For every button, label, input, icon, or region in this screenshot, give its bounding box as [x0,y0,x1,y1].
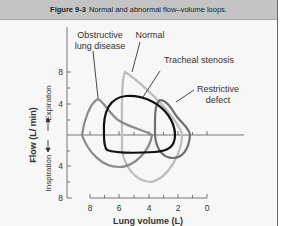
obstructive-loop [82,99,152,167]
x-tick-label: 4 [147,203,152,213]
annotation-restrictive: Restrictive [197,84,239,94]
x-tick-label: 8 [88,203,93,213]
annotation-normal: Normal [135,30,164,40]
y-tick-label: 4 [58,99,63,109]
x-axis-title: Lung volume (L) [113,216,183,226]
y-tick-label: 4 [58,161,63,171]
annotation-obstructive: lung disease [75,41,126,51]
y-axis-title: Flow (L/ min) [28,107,38,163]
flow-volume-chart: 8 4 4 8 8 6 4 2 0 Lung volume (L) Flow (… [0,0,284,226]
inspiration-label: Inspiration [44,155,53,192]
annotation-obstructive: Obstructive [77,30,123,40]
tracheal-stenosis-loop [104,96,175,153]
annotation-tracheal-stenosis: Tracheal stenosis [164,55,235,65]
x-ticks [90,194,207,198]
restrictive-loop [155,100,190,158]
y-tick-label: 8 [58,193,63,203]
y-tick-label: 8 [58,67,63,77]
x-tick-label: 0 [205,203,210,213]
expiration-label: Expiration [44,85,53,121]
x-tick-label: 6 [117,203,122,213]
leader-lines [93,42,194,102]
annotation-restrictive: defect [206,95,231,105]
arrow-down-icon [46,148,50,152]
x-tick-label: 2 [176,203,181,213]
direction-arrows [46,118,50,152]
y-ticks [67,72,71,182]
